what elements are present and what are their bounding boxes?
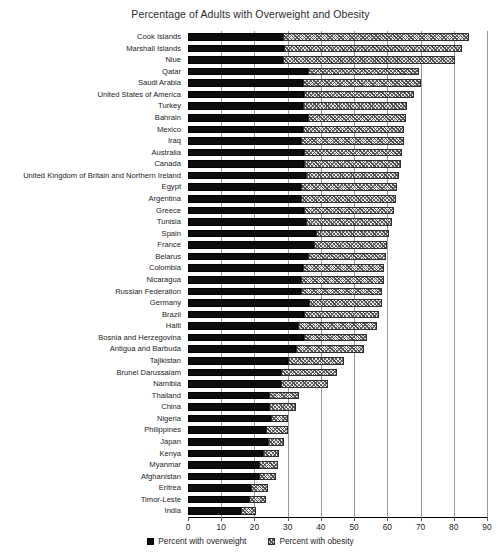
bar-row[interactable] [188,135,487,147]
stacked-bar[interactable] [188,218,392,226]
stacked-bar[interactable] [188,230,389,238]
bar-segment-obesity[interactable] [303,102,408,110]
stacked-bar[interactable] [188,33,469,41]
bar-segment-obesity[interactable] [269,392,299,400]
bar-row[interactable] [188,251,487,263]
bar-segment-obesity[interactable] [304,311,379,319]
bar-segment-overweight[interactable] [188,195,301,203]
bar-segment-overweight[interactable] [188,392,269,400]
bar-segment-overweight[interactable] [188,114,308,122]
bar-segment-overweight[interactable] [188,56,283,64]
bar-segment-obesity[interactable] [269,403,296,411]
stacked-bar[interactable] [188,160,401,168]
bar-segment-overweight[interactable] [188,403,269,411]
bar-row[interactable] [188,54,487,66]
bar-segment-overweight[interactable] [188,322,298,330]
bar-row[interactable] [188,309,487,321]
bar-segment-overweight[interactable] [188,33,283,41]
bar-row[interactable] [188,367,487,379]
bar-segment-overweight[interactable] [188,438,268,446]
stacked-bar[interactable] [188,299,382,307]
stacked-bar[interactable] [188,91,414,99]
stacked-bar[interactable] [188,207,394,215]
bar-segment-overweight[interactable] [188,461,259,469]
bar-segment-overweight[interactable] [188,264,303,272]
bar-row[interactable] [188,77,487,89]
stacked-bar[interactable] [188,183,397,191]
bar-segment-overweight[interactable] [188,496,249,504]
bar-row[interactable] [188,274,487,286]
bar-segment-obesity[interactable] [296,345,364,353]
bar-segment-overweight[interactable] [188,334,304,342]
bar-segment-overweight[interactable] [188,357,288,365]
bar-row[interactable] [188,170,487,182]
bar-row[interactable] [188,181,487,193]
bar-segment-obesity[interactable] [301,137,404,145]
bar-segment-overweight[interactable] [188,507,241,515]
bar-segment-obesity[interactable] [308,114,406,122]
bar-segment-obesity[interactable] [298,322,378,330]
stacked-bar[interactable] [188,426,288,434]
stacked-bar[interactable] [188,496,266,504]
bar-row[interactable] [188,205,487,217]
bar-segment-overweight[interactable] [188,102,303,110]
bar-segment-overweight[interactable] [188,484,251,492]
bar-row[interactable] [188,413,487,425]
bar-segment-obesity[interactable] [283,56,456,64]
bar-row[interactable] [188,286,487,298]
bar-row[interactable] [188,436,487,448]
bar-segment-overweight[interactable] [188,450,263,458]
bar-segment-obesity[interactable] [314,241,387,249]
bar-segment-overweight[interactable] [188,253,308,261]
bar-row[interactable] [188,228,487,240]
bar-row[interactable] [188,66,487,78]
bar-segment-overweight[interactable] [188,137,301,145]
bar-row[interactable] [188,424,487,436]
bar-segment-obesity[interactable] [308,253,386,261]
stacked-bar[interactable] [188,369,337,377]
stacked-bar[interactable] [188,68,419,76]
stacked-bar[interactable] [188,195,396,203]
bar-row[interactable] [188,494,487,506]
bar-segment-obesity[interactable] [303,264,384,272]
bar-segment-overweight[interactable] [188,276,301,284]
bar-segment-overweight[interactable] [188,426,266,434]
bar-row[interactable] [188,124,487,136]
bar-segment-obesity[interactable] [259,473,276,481]
bar-segment-overweight[interactable] [188,126,303,134]
bar-row[interactable] [188,459,487,471]
stacked-bar[interactable] [188,403,296,411]
stacked-bar[interactable] [188,126,404,134]
stacked-bar[interactable] [188,149,402,157]
bar-row[interactable] [188,482,487,494]
stacked-bar[interactable] [188,415,288,423]
bar-segment-overweight[interactable] [188,299,309,307]
stacked-bar[interactable] [188,253,386,261]
stacked-bar[interactable] [188,461,278,469]
bar-segment-obesity[interactable] [301,276,384,284]
bar-row[interactable] [188,401,487,413]
bar-row[interactable] [188,31,487,43]
bar-row[interactable] [188,378,487,390]
stacked-bar[interactable] [188,172,399,180]
bar-segment-obesity[interactable] [304,334,367,342]
stacked-bar[interactable] [188,334,367,342]
bar-segment-overweight[interactable] [188,218,306,226]
bar-row[interactable] [188,112,487,124]
stacked-bar[interactable] [188,345,364,353]
bar-row[interactable] [188,505,487,517]
stacked-bar[interactable] [188,380,328,388]
stacked-bar[interactable] [188,484,268,492]
bar-segment-overweight[interactable] [188,68,308,76]
bar-segment-obesity[interactable] [266,426,288,434]
bar-segment-overweight[interactable] [188,230,316,238]
bar-row[interactable] [188,471,487,483]
bar-segment-overweight[interactable] [188,45,284,53]
stacked-bar[interactable] [188,114,406,122]
bar-segment-obesity[interactable] [304,160,400,168]
bar-segment-obesity[interactable] [304,91,414,99]
stacked-bar[interactable] [188,473,276,481]
bar-segment-obesity[interactable] [308,68,419,76]
stacked-bar[interactable] [188,276,384,284]
bar-row[interactable] [188,332,487,344]
